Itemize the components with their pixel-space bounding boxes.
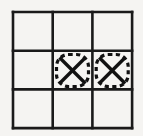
cell-r3c1[interactable] xyxy=(13,89,53,128)
cell-r1c1[interactable] xyxy=(13,12,53,51)
cell-r3c2[interactable] xyxy=(53,89,93,128)
cell-r1c3[interactable] xyxy=(92,12,132,51)
cell-r2c3[interactable] xyxy=(92,51,132,90)
cell-r2c2[interactable] xyxy=(53,51,93,90)
cell-r2c1[interactable] xyxy=(13,51,53,90)
cell-r1c2[interactable] xyxy=(53,12,93,51)
grid-diagram-figure xyxy=(0,0,143,136)
grid-svg xyxy=(0,0,143,136)
cell-hit-areas xyxy=(13,12,132,128)
cell-r3c3[interactable] xyxy=(92,89,132,128)
